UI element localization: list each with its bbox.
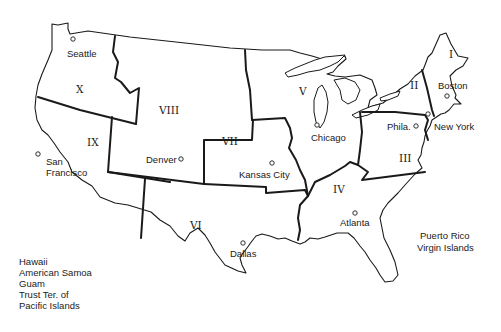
border-v-iii [358, 112, 362, 165]
city-label-francisco: Francisco [46, 167, 87, 178]
city-marker-san-francisco [36, 152, 40, 156]
border-ii-i [422, 70, 434, 116]
region-label-x: X [76, 83, 84, 95]
border-vi-iv [298, 196, 308, 240]
region-label-ii: II [410, 79, 418, 91]
city-label-kansas-city: Kansas City [239, 169, 290, 180]
lake-michigan [314, 85, 328, 128]
lake-ontario [380, 91, 400, 101]
city-label-seattle: Seattle [67, 48, 97, 59]
city-marker-seattle [71, 37, 75, 41]
territory-guam: Guam [19, 278, 45, 289]
city-label-atlanta: Atlanta [340, 217, 370, 228]
territory-virgin-islands: Virgin Islands [417, 242, 474, 253]
region-label-iii: III [399, 152, 411, 164]
region-label-viii: VIII [158, 104, 179, 116]
city-marker-new-york [426, 112, 430, 116]
city-label-san: San [46, 156, 63, 167]
region-label-iv: IV [333, 183, 345, 195]
city-marker-kansas-city [270, 161, 274, 165]
city-marker-chicago [315, 123, 319, 127]
border-viii-vi [108, 172, 204, 184]
city-marker-dallas [241, 241, 245, 245]
region-label-vii: VII [221, 135, 238, 147]
territory-hawaii: Hawaii [19, 256, 48, 267]
border-viii-v [245, 50, 252, 120]
federal-regions-map: I II III IV V VI VII VIII IX X Seattle S… [0, 0, 501, 332]
city-label-philadelphia: Phila. [387, 121, 411, 132]
city-label-boston: Boston [438, 80, 468, 91]
region-label-vi: VI [189, 219, 202, 231]
city-label-dallas: Dallas [230, 248, 257, 259]
region-label-ix: IX [87, 136, 99, 148]
city-marker-atlanta [353, 211, 357, 215]
border-vii-vi [204, 184, 308, 196]
lake-huron [334, 78, 360, 104]
border-x-ix [38, 97, 136, 124]
region-label-v: V [298, 85, 307, 97]
border-vii-v [252, 118, 308, 196]
city-marker-philadelphia [414, 124, 418, 128]
territory-pacific-islands: Pacific Islands [19, 300, 80, 311]
city-marker-denver [179, 157, 183, 161]
city-marker-boston [445, 94, 449, 98]
region-label-i: I [449, 48, 453, 60]
city-label-denver: Denver [146, 154, 177, 165]
territory-american-samoa: American Samoa [19, 267, 93, 278]
lake-superior [285, 55, 345, 77]
city-label-new-york: New York [434, 121, 474, 132]
border-iii-iv [358, 165, 425, 180]
territory-trust-ter: Trust Ter. of [19, 289, 69, 300]
territory-puerto-rico: Puerto Rico [420, 230, 470, 241]
city-label-chicago: Chicago [311, 132, 346, 143]
border-x-viii [113, 36, 139, 124]
border-ix-vi [141, 179, 145, 238]
